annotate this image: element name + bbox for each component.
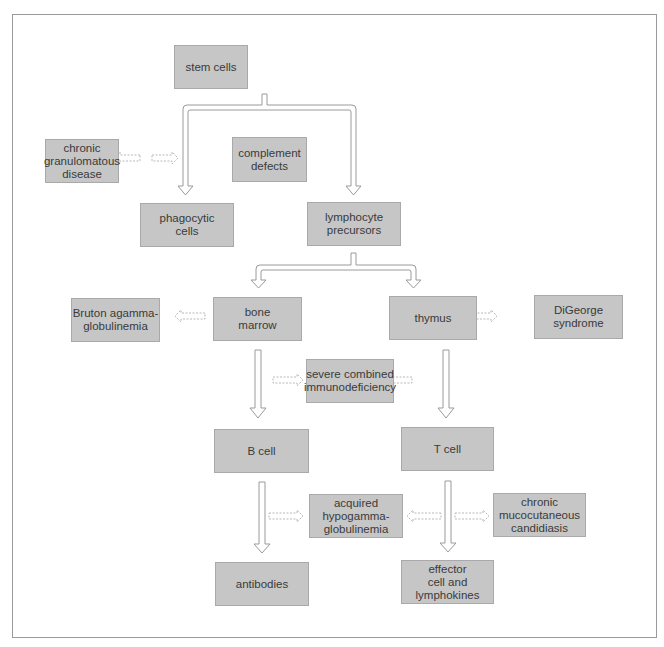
- node-complement-defects: complement defects: [232, 137, 307, 182]
- node-bruton-agammaglobulinemia: Bruton agamma- globulinemia: [71, 298, 160, 342]
- dashed-arrow-bruton-shape: [175, 310, 205, 322]
- node-antibodies: antibodies: [215, 562, 309, 606]
- dashed-arrow-ahg-left: [269, 510, 303, 522]
- dashed-arrow-complement: [152, 152, 178, 164]
- dashed-arrow-ahg-right: [407, 510, 441, 522]
- node-severe-combined-immunodeficiency: severe combined immunodeficiency: [306, 359, 394, 403]
- solid-arrow-bcell-antibodies: [254, 482, 270, 553]
- node-effector-cell-and-lymphokines: effector cell and lymphokines: [401, 560, 494, 604]
- dashed-arrow-cmc: [455, 510, 489, 522]
- solid-arrow-bm-bcell: [250, 350, 266, 418]
- dashed-arrow-scid-left: [273, 374, 303, 386]
- node-stem-cells: stem cells: [174, 45, 248, 89]
- solid-arrow-tcell-effector: [440, 481, 456, 552]
- solid-arrow-thymus-tcell: [438, 350, 454, 418]
- solid-arrow-lymph-split: [251, 253, 421, 288]
- node-chronic-granulomatous-disease: chronic granulomatous disease: [45, 139, 119, 183]
- node-lymphocyte-precursors: lymphocyte precursors: [307, 202, 401, 246]
- node-chronic-mucocutaneous-candidiasis: chronic mucocutaneous candidiasis: [493, 493, 586, 537]
- node-thymus: thymus: [389, 296, 477, 340]
- node-bone-marrow: bone marrow: [213, 297, 302, 341]
- node-t-cell: T cell: [401, 427, 494, 471]
- node-b-cell: B cell: [214, 429, 309, 473]
- node-acquired-hypogammaglobulinemia: acquired hypogamma- globulinemia: [309, 494, 403, 538]
- node-phagocytic-cells: phagocytic cells: [140, 203, 234, 247]
- node-digeorge-syndrome: DiGeorge syndrome: [534, 295, 623, 339]
